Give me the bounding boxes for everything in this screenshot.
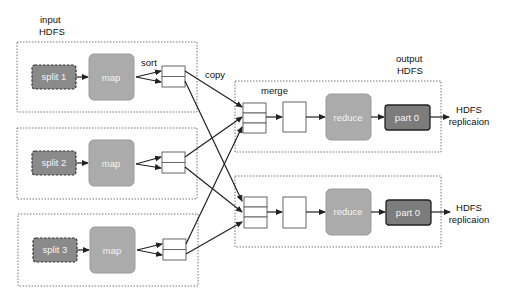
split-label: split 2 (42, 157, 67, 168)
arrow (136, 164, 161, 168)
arrow (136, 77, 161, 82)
part-label: part 0 (396, 207, 420, 218)
sort-buffer-cell (163, 239, 186, 250)
merge-label: merge (261, 85, 288, 96)
merge-buffer-cell (243, 123, 266, 133)
dest-label-line1: HDFS (456, 202, 482, 213)
map-label: map (102, 72, 120, 83)
dest-label-line1: HDFS (456, 104, 482, 115)
part-label: part 0 (395, 112, 419, 123)
copy-arrow (185, 117, 242, 157)
map-task-1: split 1 map (17, 42, 197, 112)
merge-buffer-cell (244, 197, 267, 207)
sort-label: sort (141, 57, 157, 68)
sort-buffer-cell (163, 250, 186, 261)
dest-label-line2: replicaion (449, 214, 490, 225)
mapreduce-diagram: input HDFS output HDFS sort copy merge s… (0, 0, 511, 297)
split-label: split 3 (43, 244, 68, 255)
sort-buffer-cell (162, 66, 185, 77)
map-label: map (103, 245, 121, 256)
merge-buffer-cell (243, 103, 266, 113)
reduce-task-2: reduce part 0 HDFS replicaion (235, 176, 489, 247)
map-task-2: split 2 map (17, 128, 197, 199)
sort-buffer-cell (162, 152, 185, 163)
arrow (136, 71, 161, 77)
output-label-line2: HDFS (397, 65, 423, 76)
reduce-label: reduce (333, 206, 362, 217)
input-label-line2: HDFS (39, 26, 65, 37)
merge-buffer-cell (244, 207, 267, 217)
map-task-3: split 3 map (18, 214, 198, 286)
reduce-label: reduce (333, 112, 362, 123)
arrow (137, 244, 162, 250)
output-label-line1: output (396, 53, 423, 64)
arrow (136, 157, 161, 164)
arrow (137, 250, 162, 255)
copy-label: copy (205, 69, 225, 80)
merge-buffer-cell (243, 113, 266, 123)
map-label: map (102, 158, 120, 169)
input-label-line1: input (40, 14, 61, 25)
sort-buffer-cell (162, 77, 185, 88)
merged-output-box (283, 102, 306, 132)
copy-arrow (185, 81, 242, 201)
merged-output-box (283, 197, 306, 228)
split-label: split 1 (42, 71, 67, 82)
dest-label-line2: replicaion (449, 116, 490, 127)
copy-arrow (185, 167, 242, 212)
shuffle-edges (185, 71, 242, 254)
sort-buffer-cell (162, 163, 185, 174)
merge-buffer-cell (244, 217, 267, 228)
